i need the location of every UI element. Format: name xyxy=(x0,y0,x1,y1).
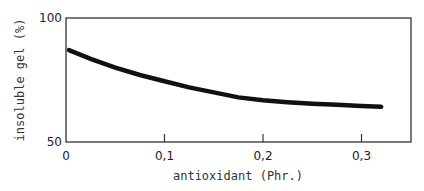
x-tick-label: 0,2 xyxy=(253,149,272,163)
x-ticks: 00,10,20,3 xyxy=(62,134,371,163)
x-tick-label: 0,1 xyxy=(155,149,174,163)
y-axis-label: insoluble gel (%) xyxy=(13,19,27,142)
y-tick-label: 100 xyxy=(39,11,62,25)
chart: 00,10,20,3 50100 antioxidant (Phr.) inso… xyxy=(0,0,424,191)
plot-frame xyxy=(66,18,411,142)
x-tick-label: 0 xyxy=(62,149,70,163)
y-tick-label: 50 xyxy=(47,135,62,149)
y-tick-labels: 50100 xyxy=(39,11,62,149)
x-axis-label: antioxidant (Phr.) xyxy=(173,169,303,183)
data-line xyxy=(69,50,381,107)
x-tick-label: 0,3 xyxy=(352,149,371,163)
